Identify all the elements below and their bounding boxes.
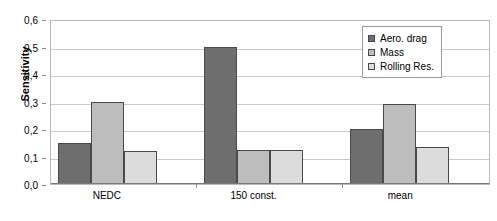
y-tick-mark	[42, 20, 46, 21]
x-axis-labels: NEDC150 const.mean	[50, 190, 490, 212]
x-axis-line	[51, 183, 489, 184]
y-tick-label: 0,3	[24, 97, 38, 108]
y-tick-label: 0,0	[24, 180, 38, 191]
y-tick-mark	[42, 75, 46, 76]
legend-label: Mass	[380, 47, 404, 58]
bar	[383, 104, 416, 184]
legend-item: Mass	[368, 45, 434, 59]
legend-item: Rolling Res.	[368, 59, 434, 73]
sensitivity-bar-chart: Sensitivity 0,00,10,20,30,40,50,6 NEDC15…	[0, 0, 497, 221]
legend-swatch-icon	[368, 49, 375, 56]
bar	[237, 150, 270, 184]
chart-legend: Aero. drag Mass Rolling Res.	[362, 26, 442, 78]
bar	[416, 147, 449, 184]
bar	[270, 150, 303, 184]
x-tick-label: mean	[343, 190, 490, 212]
legend-swatch-icon	[368, 63, 375, 70]
legend-label: Rolling Res.	[380, 61, 434, 72]
bar	[124, 151, 157, 184]
y-tick-mark	[42, 130, 46, 131]
y-tick-label: 0,6	[24, 15, 38, 26]
bar	[58, 143, 91, 184]
legend-item: Aero. drag	[368, 31, 434, 45]
bar	[350, 129, 383, 184]
y-tick-label: 0,4	[24, 70, 38, 81]
y-tick-mark	[42, 48, 46, 49]
legend-swatch-icon	[368, 35, 375, 42]
bar-group	[51, 21, 197, 184]
bar	[204, 47, 237, 185]
y-axis-ticks: 0,00,10,20,30,40,50,6	[0, 0, 46, 221]
bar	[91, 102, 124, 185]
y-tick-mark	[42, 158, 46, 159]
bar-group	[197, 21, 343, 184]
x-tick-label: NEDC	[50, 190, 197, 212]
y-tick-label: 0,2	[24, 125, 38, 136]
y-tick-mark	[42, 103, 46, 104]
x-tick-label: 150 const.	[197, 190, 344, 212]
y-tick-label: 0,5	[24, 42, 38, 53]
legend-label: Aero. drag	[380, 33, 427, 44]
y-tick-mark	[42, 185, 46, 186]
y-tick-label: 0,1	[24, 152, 38, 163]
